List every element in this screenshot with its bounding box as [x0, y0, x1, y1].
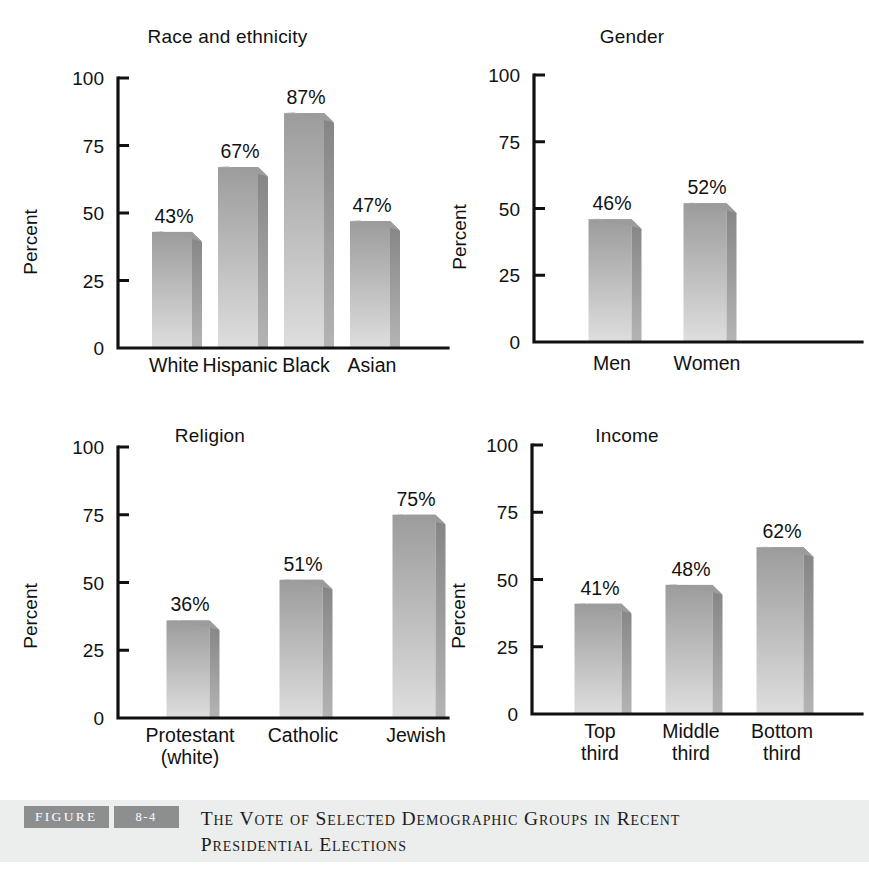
y-axis-tick-label: 75: [83, 505, 104, 526]
bar-catholic: [280, 579, 333, 718]
bar-men: [589, 219, 642, 342]
x-axis-category-label: Black: [282, 354, 330, 376]
y-axis-tick-label: 100: [72, 68, 104, 89]
chart-panel-race-and-ethnicity: Race and ethnicity Percent 43%White67%Hi…: [0, 26, 455, 418]
y-axis-label-income: Percent: [448, 576, 470, 656]
chart-title-gender: Gender: [452, 26, 812, 48]
bar-value-label: 67%: [220, 140, 259, 162]
y-axis-tick-label: 50: [83, 203, 104, 224]
y-axis-label-religion: Percent: [20, 576, 42, 656]
chart-title-religion: Religion: [0, 425, 420, 447]
figure-caption-text: The Vote of Selected Demographic Groups …: [201, 806, 761, 857]
y-axis-tick-label: 0: [93, 708, 104, 729]
x-axis-category-label: Top: [584, 720, 616, 742]
y-axis-tick-label: 50: [83, 573, 104, 594]
bar-value-label: 62%: [762, 520, 801, 542]
bar-hispanic: [218, 167, 268, 348]
y-axis-tick-label: 50: [499, 199, 520, 220]
bar-value-label: 48%: [671, 558, 710, 580]
bar-value-label: 87%: [286, 86, 325, 108]
chart-panel-gender: Gender Percent 46%Men52%Women0255075100: [452, 26, 869, 418]
y-axis-tick-label: 100: [488, 65, 520, 86]
bar-value-label: 46%: [592, 192, 631, 214]
chart-svg-income: 41%Topthird48%Middlethird62%Bottomthird0…: [452, 425, 869, 790]
y-axis-tick-label: 25: [83, 271, 104, 292]
bar-value-label: 47%: [352, 194, 391, 216]
bar-women: [684, 203, 737, 342]
bar-value-label: 51%: [283, 553, 322, 575]
x-axis-category-label: Jewish: [386, 724, 446, 746]
x-axis-category-label: Middle: [662, 720, 719, 742]
x-axis-category-label: third: [581, 742, 619, 764]
y-axis-tick-label: 75: [83, 136, 104, 157]
y-axis-tick-label: 0: [507, 704, 518, 725]
x-axis-category-label: (white): [161, 746, 220, 768]
chart-panel-income: Income Percent 41%Topthird48%Middlethird…: [452, 425, 869, 790]
x-axis-category-label: third: [763, 742, 801, 764]
bar-asian: [350, 221, 400, 348]
figure-number-badge: 8-4: [114, 806, 179, 828]
x-axis-category-label: Bottom: [751, 720, 813, 742]
y-axis-tick-label: 0: [509, 332, 520, 353]
y-axis-tick-label: 75: [499, 132, 520, 153]
y-axis-tick-label: 25: [499, 265, 520, 286]
figure-caption-band: FIGURE 8-4 The Vote of Selected Demograp…: [0, 800, 869, 862]
bar-value-label: 41%: [580, 577, 619, 599]
chart-title-income: Income: [452, 425, 802, 447]
chart-svg-gender: 46%Men52%Women0255075100: [452, 26, 869, 418]
x-axis-category-label: Asian: [348, 354, 397, 376]
bar-middle-third: [666, 584, 723, 714]
chart-panel-religion: Religion Percent 36%Protestant(white)51%…: [0, 425, 455, 790]
bar-protestant--white-: [167, 620, 220, 718]
bar-top-third: [575, 603, 632, 714]
bar-value-label: 36%: [170, 593, 209, 615]
bar-white: [152, 231, 202, 348]
x-axis-category-label: White: [149, 354, 199, 376]
bar-bottom-third: [757, 547, 814, 714]
x-axis-category-label: Men: [593, 352, 631, 374]
figure-container: Race and ethnicity Percent 43%White67%Hi…: [0, 0, 869, 879]
y-axis-tick-label: 25: [497, 637, 518, 658]
chart-svg-race-and-ethnicity: 43%White67%Hispanic87%Black47%Asian02550…: [0, 26, 455, 418]
chart-svg-religion: 36%Protestant(white)51%Catholic75%Jewish…: [0, 425, 455, 790]
x-axis-category-label: Hispanic: [203, 354, 278, 376]
x-axis-category-label: Protestant: [146, 724, 235, 746]
y-axis-label-race-and-ethnicity: Percent: [20, 202, 42, 282]
x-axis-category-label: third: [672, 742, 710, 764]
y-axis-tick-label: 0: [93, 338, 104, 359]
y-axis-tick-label: 50: [497, 570, 518, 591]
bar-jewish: [393, 514, 446, 718]
y-axis-tick-label: 25: [83, 640, 104, 661]
y-axis-tick-label: 75: [497, 502, 518, 523]
bar-value-label: 75%: [396, 488, 435, 510]
bar-value-label: 43%: [154, 205, 193, 227]
figure-badge-label: FIGURE: [24, 806, 109, 828]
bar-black: [284, 113, 334, 348]
x-axis-category-label: Women: [674, 352, 741, 374]
y-axis-label-gender: Percent: [449, 197, 471, 277]
x-axis-category-label: Catholic: [268, 724, 339, 746]
bar-value-label: 52%: [687, 176, 726, 198]
chart-title-race-and-ethnicity: Race and ethnicity: [0, 26, 455, 48]
